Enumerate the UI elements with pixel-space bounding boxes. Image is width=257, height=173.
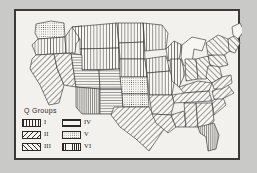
region-minnesota[interactable]: [143, 23, 168, 51]
map-plate: Q Groups I IV II V: [14, 9, 240, 160]
region-new-york[interactable]: [206, 35, 230, 55]
legend-swatch-diagonal-forwardslash-icon: [22, 143, 41, 151]
legend-swatch-stipple-dots-icon: [62, 131, 81, 139]
legend-swatch-dense-vertical-lines-icon: [62, 143, 81, 151]
legend-swatch-vertical-lines-icon: [22, 119, 41, 127]
region-iowa[interactable]: [145, 56, 170, 73]
region-washington[interactable]: [35, 21, 65, 39]
legend-item-iii[interactable]: III: [22, 141, 60, 152]
legend-item-vi[interactable]: VI: [62, 141, 104, 152]
region-alabama[interactable]: [184, 103, 198, 127]
region-wyoming[interactable]: [80, 48, 120, 70]
legend-label-v: V: [84, 131, 89, 138]
legend-grid: I IV II V III: [22, 117, 108, 152]
legend-label-i: I: [44, 119, 46, 126]
legend-item-v[interactable]: V: [62, 129, 104, 140]
figure-plate: Q Groups I IV II V: [0, 0, 257, 173]
region-missouri[interactable]: [147, 71, 174, 95]
legend-label-iv: IV: [84, 119, 91, 126]
map-legend: Q Groups I IV II V: [22, 107, 108, 157]
legend-item-iv[interactable]: IV: [62, 117, 104, 128]
legend-swatch-diagonal-backslash-icon: [22, 131, 41, 139]
legend-item-i[interactable]: I: [22, 117, 60, 128]
region-nebraska[interactable]: [120, 59, 147, 77]
legend-swatch-horizontal-lines-icon: [62, 119, 81, 127]
region-oregon[interactable]: [32, 37, 66, 55]
region-oklahoma[interactable]: [122, 94, 149, 107]
region-wisconsin[interactable]: [166, 41, 182, 61]
legend-title: Q Groups: [24, 107, 108, 114]
region-tennessee[interactable]: [172, 91, 212, 103]
region-arkansas[interactable]: [149, 95, 174, 115]
legend-item-ii[interactable]: II: [22, 129, 60, 140]
region-colorado[interactable]: [99, 69, 122, 89]
legend-label-ii: II: [44, 131, 49, 138]
region-south-dakota[interactable]: [119, 42, 145, 59]
region-florida[interactable]: [198, 123, 219, 151]
legend-label-iii: III: [44, 143, 51, 150]
legend-label-vi: VI: [84, 143, 91, 150]
region-montana[interactable]: [72, 23, 119, 49]
region-kansas[interactable]: [120, 77, 148, 94]
region-north-dakota[interactable]: [117, 23, 144, 43]
